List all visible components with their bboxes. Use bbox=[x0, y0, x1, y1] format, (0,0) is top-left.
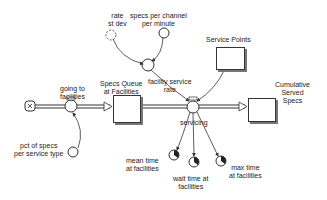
source-cloud-icon bbox=[25, 101, 35, 111]
stock-specs-queue[interactable] bbox=[113, 95, 141, 123]
stock-cumulative-served[interactable] bbox=[248, 98, 276, 122]
label-going-to-facilities: going to facilities bbox=[60, 85, 85, 101]
valve-servicing[interactable] bbox=[187, 97, 199, 113]
label-specs-queue: Specs Queue at Facilities bbox=[100, 80, 142, 96]
aux-wait-time[interactable] bbox=[189, 157, 199, 167]
label-cumulative-served: Cumulative Served Specs bbox=[275, 81, 310, 105]
label-service-points: Service Points bbox=[206, 36, 251, 44]
connectors bbox=[73, 38, 225, 156]
label-pct-of-specs: pct of specs per service type bbox=[14, 142, 63, 158]
aux-specs-per-channel[interactable] bbox=[159, 28, 169, 38]
aux-rate-st-dev[interactable] bbox=[106, 30, 116, 40]
label-wait-time: wait time at facilities bbox=[173, 175, 208, 191]
aux-mean-time[interactable] bbox=[169, 150, 179, 160]
aux-max-time[interactable] bbox=[216, 156, 226, 166]
label-rate-st-dev: rate st dev bbox=[108, 12, 127, 28]
label-facility-service-rate: facility service rate bbox=[148, 78, 192, 94]
label-servicing: servicing bbox=[180, 119, 208, 127]
label-max-time: max time at facilities bbox=[229, 164, 262, 180]
stock-service-points[interactable] bbox=[216, 47, 245, 70]
label-specs-per-channel: specs per channel per minute bbox=[130, 12, 187, 28]
aux-pct-of-specs[interactable] bbox=[68, 147, 78, 157]
label-mean-time: mean time at facilities bbox=[126, 157, 159, 173]
